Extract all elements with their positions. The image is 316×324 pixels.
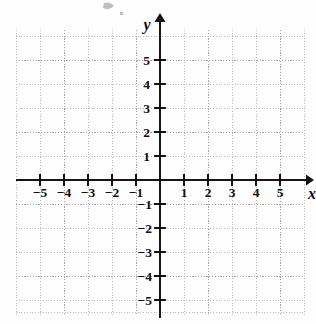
- x-tick-label: 5: [277, 185, 284, 200]
- x-tick-label: 2: [205, 185, 212, 200]
- x-tick-label: 4: [253, 185, 260, 200]
- x-tick-label: −4: [57, 185, 72, 200]
- x-axis-tick-labels: −5 −4 −3 −2 −1 1 2 3 4 5: [33, 185, 284, 200]
- y-tick-label: 4: [143, 77, 150, 92]
- y-axis-label: y: [141, 16, 151, 34]
- y-tick-label: 3: [143, 101, 150, 116]
- coordinate-plane-figure: −5 −4 −3 −2 −1 1 2 3 4 5 5 4 3 2 1 −1 −2…: [0, 0, 316, 324]
- x-axis: [16, 175, 314, 186]
- x-tick-label: 1: [181, 185, 188, 200]
- y-tick-label: −4: [138, 269, 153, 284]
- x-tick-label: −5: [33, 185, 48, 200]
- y-tick-label: 5: [143, 53, 150, 68]
- x-tick-label: −2: [105, 185, 120, 200]
- coordinate-grid-svg: −5 −4 −3 −2 −1 1 2 3 4 5 5 4 3 2 1 −1 −2…: [0, 0, 316, 324]
- x-axis-label: x: [307, 185, 316, 202]
- y-tick-label: −2: [138, 221, 153, 236]
- x-tick-label: −3: [81, 185, 96, 200]
- y-axis: [155, 13, 166, 318]
- y-tick-label: −1: [138, 197, 153, 212]
- y-axis-arrow-icon: [155, 13, 166, 22]
- scan-artifact: [103, 2, 123, 15]
- y-tick-label: 1: [143, 149, 150, 164]
- y-tick-label: 2: [143, 125, 150, 140]
- x-axis-arrow-icon: [306, 175, 314, 186]
- y-tick-label: −5: [138, 293, 153, 308]
- x-tick-label: 3: [229, 185, 236, 200]
- y-tick-label: −3: [138, 245, 153, 260]
